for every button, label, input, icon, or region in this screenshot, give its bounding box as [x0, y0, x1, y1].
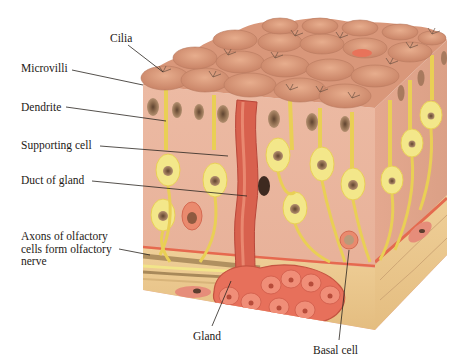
leader-microvilli: [72, 70, 143, 85]
label-duct-of-gland: Duct of gland: [21, 174, 84, 187]
front-face: [143, 85, 375, 330]
leader-cilia: [128, 45, 163, 72]
label-supporting-cell: Supporting cell: [21, 139, 92, 152]
label-dendrite: Dendrite: [21, 101, 61, 114]
label-cilia: Cilia: [110, 32, 132, 45]
label-axons-olfactory-nerve: Axons of olfactory cells form olfactory …: [21, 230, 112, 268]
label-microvilli: Microvilli: [21, 62, 68, 75]
label-basal-cell: Basal cell: [313, 344, 358, 357]
label-gland: Gland: [193, 330, 221, 343]
gland-body: [213, 265, 344, 323]
